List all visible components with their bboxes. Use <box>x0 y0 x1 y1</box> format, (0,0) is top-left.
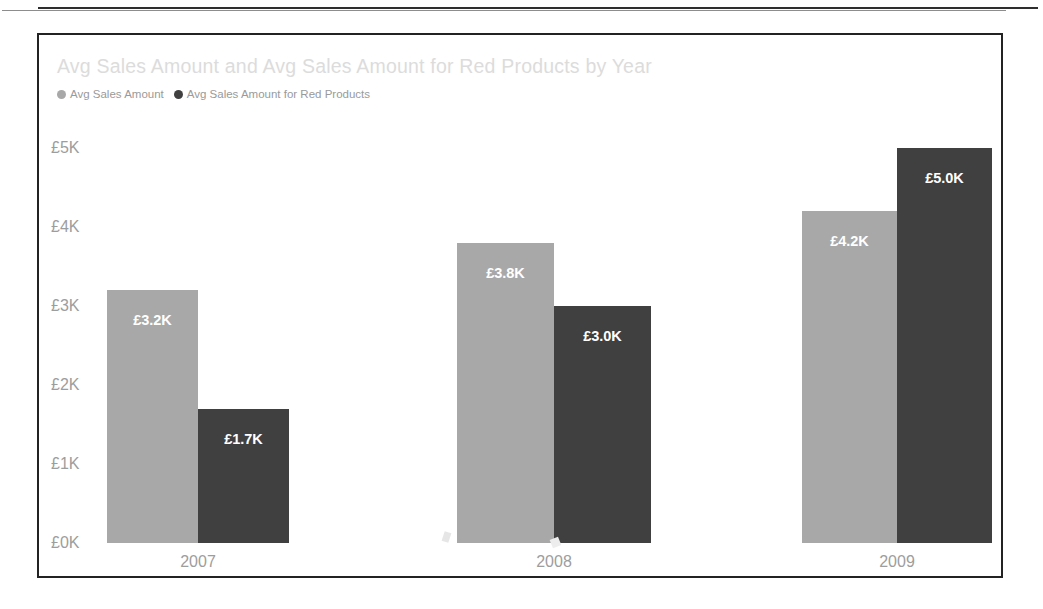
bar-value-label: £3.8K <box>457 265 554 281</box>
x-axis-tick-label: 2007 <box>180 553 216 571</box>
bar-2008-avg-sales-amount[interactable]: £3.8K <box>457 243 554 543</box>
chart-visual-frame[interactable]: Avg Sales Amount and Avg Sales Amount fo… <box>37 33 1003 578</box>
y-axis-tick-label: £5K <box>51 139 99 157</box>
bar-value-label: £3.2K <box>107 312 198 328</box>
scan-artifact <box>442 531 452 543</box>
bar-2009-avg-sales-amount[interactable]: £4.2K <box>802 211 897 543</box>
bar-2009-avg-sales-amount-red-products[interactable]: £5.0K <box>897 148 992 543</box>
y-axis-tick-label: £2K <box>51 376 99 394</box>
x-axis-tick-label: 2008 <box>536 553 572 571</box>
page-top-rule <box>38 7 1038 9</box>
y-axis-tick-label: £0K <box>51 534 99 552</box>
bar-value-label: £4.2K <box>802 233 897 249</box>
plot-area: £5K £4K £3K £2K £1K £0K £3.2K £1.7K £3.8… <box>39 35 1001 576</box>
y-axis-tick-label: £1K <box>51 455 99 473</box>
x-axis-tick-label: 2009 <box>879 553 915 571</box>
bar-2007-avg-sales-amount[interactable]: £3.2K <box>107 290 198 543</box>
bar-2007-avg-sales-amount-red-products[interactable]: £1.7K <box>198 409 289 543</box>
bar-value-label: £5.0K <box>897 170 992 186</box>
y-axis-tick-label: £3K <box>51 297 99 315</box>
bar-value-label: £1.7K <box>198 431 289 447</box>
y-axis-tick-label: £4K <box>51 218 99 236</box>
bar-2008-avg-sales-amount-red-products[interactable]: £3.0K <box>554 306 651 543</box>
bar-value-label: £3.0K <box>554 328 651 344</box>
